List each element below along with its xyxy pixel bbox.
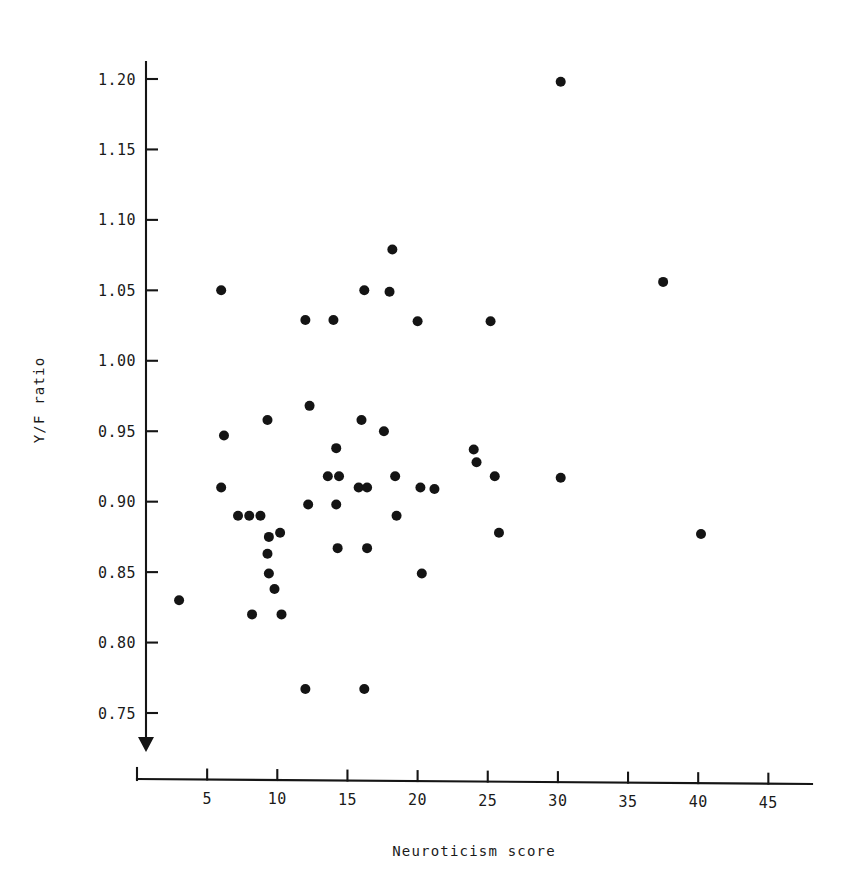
data-point <box>269 584 279 594</box>
data-point <box>264 532 274 542</box>
data-point <box>277 609 287 619</box>
data-point <box>300 684 310 694</box>
y-tick-group <box>146 79 158 713</box>
y-tick-label: 0.80 <box>98 634 136 652</box>
y-axis-origin-break-icon <box>138 737 154 752</box>
data-point <box>490 471 500 481</box>
y-tick-label: 0.90 <box>98 493 136 511</box>
data-point <box>359 684 369 694</box>
data-point <box>244 511 254 521</box>
data-point <box>556 473 566 483</box>
data-point <box>486 316 496 326</box>
data-point <box>362 543 372 553</box>
y-tick-label: 1.00 <box>98 352 136 370</box>
y-tick-label: 1.20 <box>98 71 136 89</box>
x-tick-label: 5 <box>202 790 212 808</box>
data-point <box>494 528 504 538</box>
y-tick-label: 0.95 <box>98 423 136 441</box>
y-tick-label: 1.10 <box>98 211 136 229</box>
data-point <box>323 471 333 481</box>
data-point <box>331 499 341 509</box>
data-point <box>362 483 372 493</box>
data-point <box>300 315 310 325</box>
x-tick-label: 45 <box>759 794 778 812</box>
y-tick-label: 0.85 <box>98 564 136 582</box>
data-point <box>255 511 265 521</box>
x-tick-label: 20 <box>408 791 427 809</box>
data-point <box>303 499 313 509</box>
data-point <box>233 511 243 521</box>
data-point <box>417 569 427 579</box>
data-point <box>262 415 272 425</box>
x-axis-line <box>137 779 812 784</box>
data-point <box>696 529 706 539</box>
y-axis: 0.750.800.850.900.951.001.051.101.151.20 <box>98 62 158 752</box>
x-tick-label: 15 <box>338 791 357 809</box>
data-point <box>658 277 668 287</box>
data-point <box>359 285 369 295</box>
plot-canvas: 0.750.800.850.900.951.001.051.101.151.20… <box>0 0 857 895</box>
scatter-plot-figure: 0.750.800.850.900.951.001.051.101.151.20… <box>0 0 857 895</box>
data-point <box>413 316 423 326</box>
data-point <box>387 244 397 254</box>
data-point <box>385 287 395 297</box>
data-point <box>415 483 425 493</box>
data-point-group <box>174 77 706 694</box>
x-axis-title: Neuroticism score <box>392 843 556 859</box>
data-point <box>429 484 439 494</box>
data-point <box>328 315 338 325</box>
x-tick-label: 35 <box>619 793 638 811</box>
x-tick-label: 40 <box>689 793 708 811</box>
data-point <box>247 609 257 619</box>
x-tick-label-group: 51015202530354045 <box>202 790 777 812</box>
y-tick-label: 1.15 <box>98 141 136 159</box>
data-point <box>219 430 229 440</box>
data-point <box>275 528 285 538</box>
data-point <box>174 595 184 605</box>
data-point <box>262 549 272 559</box>
data-point <box>390 471 400 481</box>
x-axis: 51015202530354045 <box>137 768 812 812</box>
data-point <box>216 483 226 493</box>
data-point <box>472 457 482 467</box>
data-point <box>216 285 226 295</box>
data-point <box>334 471 344 481</box>
data-point <box>379 426 389 436</box>
data-point <box>469 445 479 455</box>
x-tick-label: 30 <box>548 792 567 810</box>
data-point <box>356 415 366 425</box>
data-point <box>556 77 566 87</box>
y-tick-label: 1.05 <box>98 282 136 300</box>
data-point <box>392 511 402 521</box>
data-point <box>333 543 343 553</box>
y-tick-label-group: 0.750.800.850.900.951.001.051.101.151.20 <box>98 71 136 723</box>
data-point <box>331 443 341 453</box>
data-point <box>305 401 315 411</box>
y-tick-label: 0.75 <box>98 705 136 723</box>
x-tick-label: 25 <box>478 792 497 810</box>
y-axis-title: Y/F ratio <box>31 357 47 444</box>
data-point <box>264 569 274 579</box>
x-tick-label: 10 <box>268 790 287 808</box>
